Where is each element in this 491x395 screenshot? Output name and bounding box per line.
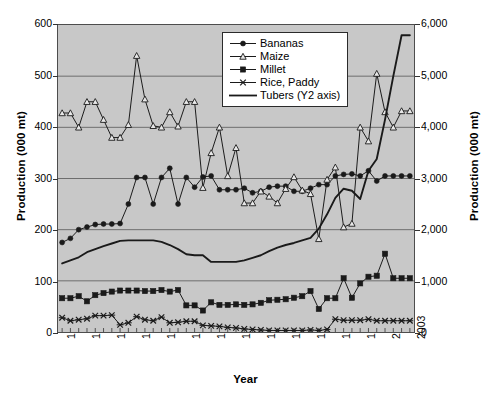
legend-item: Rice, Paddy	[228, 76, 340, 89]
chart-container: Production (000 mt) Production (000 mt) …	[0, 0, 491, 395]
series-bananas	[60, 166, 413, 245]
axis-tick-mark	[415, 179, 420, 180]
axis-tick-mark	[415, 24, 420, 25]
axis-tick-mark	[415, 230, 420, 231]
legend-marker-filled-square-icon	[228, 63, 258, 76]
axis-tick-mark	[53, 127, 58, 128]
legend-marker-plain-line-icon	[228, 89, 258, 102]
axis-tick-mark	[53, 230, 58, 231]
legend-item: Maize	[228, 50, 340, 63]
legend-marker-open-triangle-icon	[228, 50, 258, 63]
axis-tick-mark	[415, 282, 420, 283]
axis-tick-mark	[53, 24, 58, 25]
legend-label: Millet	[258, 63, 286, 76]
axis-tick-mark	[53, 282, 58, 283]
legend-marker-filled-circle-icon	[228, 37, 258, 50]
legend-label: Bananas	[258, 37, 303, 50]
x-axis-tick-label: 2003	[415, 316, 427, 339]
legend-label: Maize	[258, 50, 289, 63]
legend-marker-x-cross-icon	[228, 76, 258, 89]
series-millet	[60, 251, 413, 313]
series-rice-paddy	[59, 312, 413, 332]
axis-tick-mark	[415, 76, 420, 77]
axis-tick-mark	[53, 76, 58, 77]
legend-item: Bananas	[228, 37, 340, 50]
legend-item: Tubers (Y2 axis)	[228, 89, 340, 102]
legend-label: Tubers (Y2 axis)	[258, 89, 340, 102]
legend-item: Millet	[228, 63, 340, 76]
axis-tick-mark	[53, 179, 58, 180]
axis-tick-mark	[53, 333, 58, 334]
axis-tick-mark	[415, 333, 420, 334]
axis-tick-mark	[415, 127, 420, 128]
chart-legend: BananasMaizeMilletRice, PaddyTubers (Y2 …	[222, 32, 348, 107]
legend-label: Rice, Paddy	[258, 76, 319, 89]
